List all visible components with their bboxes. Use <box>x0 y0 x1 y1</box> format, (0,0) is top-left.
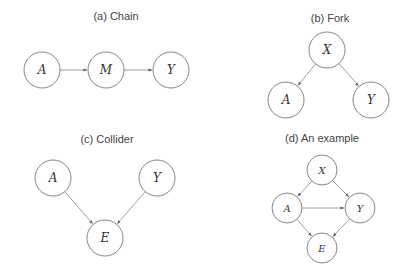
node-label: X <box>322 43 332 57</box>
panel-b: (b) ForkXAY <box>268 12 389 118</box>
node-label: M <box>99 63 113 77</box>
node-e: E <box>87 220 123 256</box>
panel-title: (a) Chain <box>93 10 138 22</box>
edge-x-to-a <box>298 64 316 85</box>
edge-a-to-e <box>65 192 93 224</box>
node-label: Y <box>167 63 176 77</box>
node-label: A <box>281 93 291 107</box>
panel-title: (d) An example <box>285 132 359 144</box>
edge-x-to-a <box>298 181 312 196</box>
node-y: Y <box>353 82 389 118</box>
edge-x-to-y <box>339 64 359 86</box>
node-label: E <box>100 231 110 245</box>
edge-a-to-e <box>297 219 312 236</box>
node-label: Y <box>153 171 162 185</box>
node-a: A <box>268 82 304 118</box>
panel-a: (a) ChainAMY <box>24 10 189 88</box>
node-label: A <box>282 203 290 214</box>
node-y: Y <box>153 52 189 88</box>
node-m: M <box>88 52 124 88</box>
panel-title: (c) Collider <box>80 133 134 145</box>
node-x: X <box>307 155 337 185</box>
node-label: Y <box>367 93 376 107</box>
node-a: A <box>272 193 302 223</box>
panel-c: (c) ColliderAYE <box>35 133 175 256</box>
node-label: X <box>317 165 326 176</box>
node-label: A <box>48 171 58 185</box>
edge-y-to-e <box>117 192 145 224</box>
node-x: X <box>309 32 345 68</box>
edge-y-to-e <box>333 219 350 237</box>
panel-d: (d) An exampleXAYE <box>272 132 375 263</box>
node-e: E <box>307 233 337 263</box>
node-label: A <box>37 63 47 77</box>
node-a: A <box>24 52 60 88</box>
causal-diagrams: (a) ChainAMY(b) ForkXAY(c) ColliderAYE(d… <box>0 0 411 269</box>
panel-title: (b) Fork <box>311 12 350 24</box>
node-y: Y <box>345 193 375 223</box>
node-label: E <box>317 243 326 254</box>
edge-x-to-y <box>333 181 349 197</box>
node-a: A <box>35 160 71 196</box>
node-y: Y <box>139 160 175 196</box>
